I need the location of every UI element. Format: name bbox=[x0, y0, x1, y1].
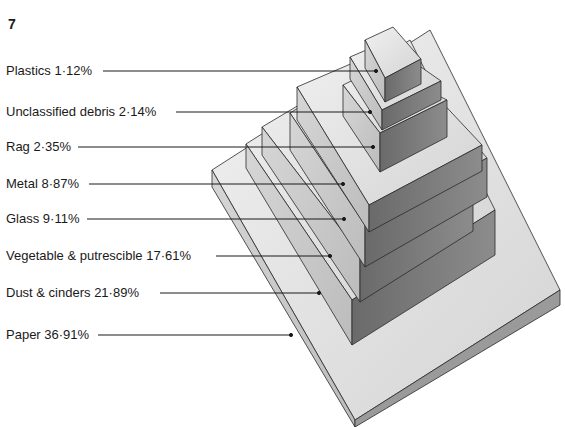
label-glass: Glass 9·11% bbox=[6, 211, 79, 226]
label-unclassified-debris: Unclassified debris 2·14% bbox=[6, 104, 156, 119]
label-plastics: Plastics 1·12% bbox=[6, 63, 92, 78]
label-paper: Paper 36·91% bbox=[6, 327, 89, 342]
label-dust-cinders: Dust & cinders 21·89% bbox=[6, 285, 139, 300]
label-metal: Metal 8·87% bbox=[6, 176, 79, 191]
label-rag: Rag 2·35% bbox=[6, 139, 71, 154]
label-vegetable-putrescible: Vegetable & putrescible 17·61% bbox=[6, 248, 191, 263]
